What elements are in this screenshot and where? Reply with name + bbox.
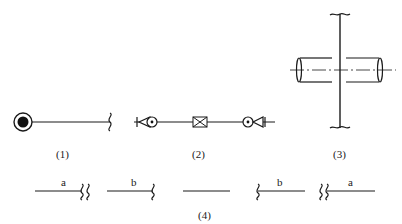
segment-label-a-right: a xyxy=(348,177,353,188)
segment-label-a-left: a xyxy=(61,177,66,188)
pipe-crossing-symbol xyxy=(290,14,396,128)
pipe-symbols-diagram xyxy=(0,0,402,224)
caption-2: (2) xyxy=(192,149,205,160)
caption-1: (1) xyxy=(56,149,69,160)
pipe-break-symbols xyxy=(35,184,375,200)
caption-4: (4) xyxy=(198,210,211,221)
pipe-riser-symbol xyxy=(14,113,111,131)
caption-3: (3) xyxy=(333,149,346,160)
segment-label-b-right: b xyxy=(277,177,283,188)
pipe-valve-symbol xyxy=(134,117,275,127)
segment-label-b-left: b xyxy=(131,177,137,188)
